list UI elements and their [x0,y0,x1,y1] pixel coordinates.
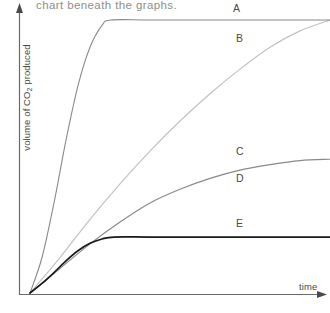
y-axis-label-prefix: volume of CO [21,91,32,150]
curve-label-c: C [236,145,244,157]
plot-area [0,0,330,313]
curve-label-d: D [236,172,244,184]
curve-c [30,159,330,293]
instruction-text: chart beneath the graphs. [36,0,177,12]
y-axis-label-subscript: 2 [26,87,33,91]
x-axis-arrowhead [317,291,327,298]
curve-label-e: E [236,217,243,229]
curve-e [30,237,330,293]
y-axis-label-suffix: produced [21,44,32,87]
graph-figure: chart beneath the graphs. volume of CO2 … [0,0,330,313]
x-axis-label: time [299,281,317,292]
curve-group [30,20,330,293]
curve-label-a: A [233,2,240,14]
y-axis-label: volume of CO2 produced [21,18,32,178]
curve-label-b: B [236,32,243,44]
y-axis-arrowhead [16,3,23,13]
